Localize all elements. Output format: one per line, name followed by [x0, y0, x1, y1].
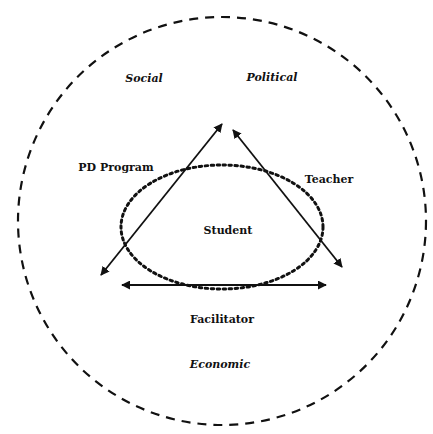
diagram: Social Political PD Program Teacher Stud…	[0, 0, 433, 434]
pd-program-label: PD Program	[78, 161, 153, 174]
economic-context-label: Economic	[190, 358, 250, 371]
teacher-label: Teacher	[305, 173, 354, 186]
facilitator-label: Facilitator	[190, 313, 254, 326]
political-context-label: Political	[247, 71, 298, 84]
teacher-arrow	[233, 130, 342, 267]
student-label: Student	[204, 224, 253, 237]
social-context-label: Social	[125, 72, 162, 85]
pd-program-arrow	[101, 124, 222, 275]
